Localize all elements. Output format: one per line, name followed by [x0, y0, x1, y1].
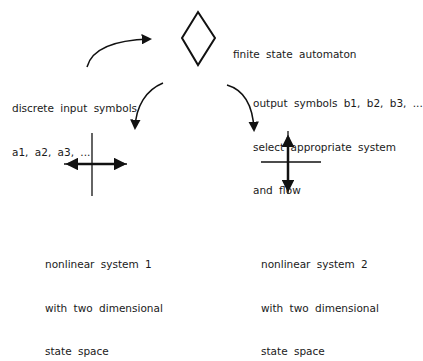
automaton-to-system2-arrow-icon [227, 85, 254, 130]
automaton-to-system1-arrow-icon [135, 83, 163, 128]
system2-label: nonlinear system 2 with two dimensional … [261, 228, 379, 361]
input-label-line-2: a1, a2, a3, ... [12, 145, 137, 160]
input-to-automaton-arrow-icon [87, 39, 150, 67]
system1-label: nonlinear system 1 with two dimensional … [45, 228, 163, 361]
output-label-line-3: and flow [253, 183, 423, 198]
input-label-line-1: discrete input symbols [12, 101, 137, 116]
automaton-label-text: finite state automaton [233, 47, 357, 62]
system2-label-line-2: with two dimensional [261, 301, 379, 316]
output-symbols-label: output symbols b1, b2, b3, ... select ap… [253, 67, 423, 212]
system1-label-line-3: state space [45, 344, 163, 359]
input-symbols-label: discrete input symbols a1, a2, a3, ... [12, 72, 137, 174]
automaton-diamond-icon [182, 12, 215, 65]
system1-label-line-2: with two dimensional [45, 301, 163, 316]
output-label-line-2: select appropriate system [253, 140, 423, 155]
system1-label-line-1: nonlinear system 1 [45, 257, 163, 272]
output-label-line-1: output symbols b1, b2, b3, ... [253, 96, 423, 111]
system2-label-line-3: state space [261, 344, 379, 359]
system2-label-line-1: nonlinear system 2 [261, 257, 379, 272]
